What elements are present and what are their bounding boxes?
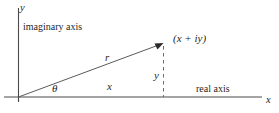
imaginary-axis-label: imaginary axis [23,22,82,32]
radius-label: r [105,52,109,63]
x-axis-label: x [266,95,271,106]
y-component-label: y [154,70,159,81]
angle-theta-label: θ [52,83,57,94]
point-coordinate-label: (x + iy) [173,33,206,44]
x-component-label: x [107,81,112,92]
y-axis-label: y [20,3,25,14]
complex-plane-diagram: y x imaginary axis real axis r θ x y (x … [0,0,279,113]
radius-vector-line [19,45,161,98]
real-axis-label: real axis [196,84,230,94]
diagram-canvas [0,0,279,113]
radius-vector-arrowhead [155,43,164,50]
